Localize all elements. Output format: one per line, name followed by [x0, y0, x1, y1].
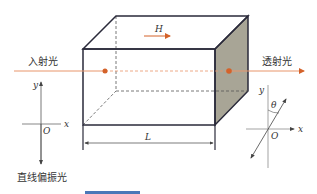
right-x-label: x [298, 124, 303, 134]
crystal-block [83, 16, 248, 125]
magnetic-field-indicator: H [144, 24, 170, 36]
left-x-label: x [64, 119, 69, 129]
length-dimension: L [83, 125, 215, 150]
polarized-light-label: 直线偏振光 [17, 171, 67, 183]
incident-light-label: 入射光 [28, 55, 58, 67]
hidden-edge-diagonal [83, 91, 116, 125]
length-label: L [144, 132, 151, 142]
light-ray: 入射光 透射光 [14, 55, 304, 74]
output-polarization-axes: y x O θ [246, 85, 303, 168]
exit-point-dot [226, 68, 232, 74]
entry-point-dot [103, 69, 108, 74]
rotation-angle-label: θ [271, 100, 277, 110]
field-label: H [154, 24, 163, 34]
transmitted-light-label: 透射光 [262, 55, 292, 67]
accent-bar [85, 191, 140, 194]
rotation-angle-arc [268, 110, 279, 113]
faraday-rotation-diagram: H 入射光 透射光 L y x O 直线偏振光 y x O θ [0, 0, 317, 194]
rotated-polarization-line [251, 99, 286, 158]
left-y-label: y [32, 80, 39, 90]
front-face [83, 49, 215, 125]
right-origin-label: O [271, 131, 279, 141]
right-y-label: y [258, 85, 265, 95]
left-origin-label: O [43, 126, 51, 136]
input-polarization-axes: y x O 直线偏振光 [17, 80, 69, 183]
